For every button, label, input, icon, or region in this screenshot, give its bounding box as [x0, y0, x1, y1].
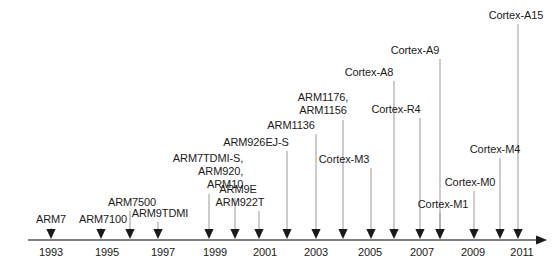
- timeline-entry-label-arm1136: ARM1136: [267, 119, 314, 132]
- marker-arrow-cortex-m0: [469, 229, 478, 239]
- year-tick-label-1999: 1999: [203, 246, 227, 258]
- marker-arrow-cortex-r4: [415, 229, 424, 239]
- marker-arrow-arm1176-arm1156: [338, 229, 347, 239]
- marker-arrow-arm7tdmi-s-arm920-arm10: [204, 229, 213, 239]
- timeline-entry-label-cortex-m3: Cortex-M3: [319, 153, 369, 166]
- marker-arrow-cortex-m4: [495, 229, 504, 239]
- arm-processor-timeline-figure: ARM7ARM7100ARM7500ARM9TDMIARM7TDMI-S, AR…: [0, 0, 557, 278]
- marker-arrow-arm9tdmi: [153, 229, 162, 239]
- marker-arrow-arm922t: [254, 229, 263, 239]
- year-tick-label-2001: 2001: [253, 246, 277, 258]
- marker-arrow-arm7500: [125, 229, 134, 239]
- marker-arrow-arm7100: [96, 229, 105, 239]
- marker-arrow-cortex-m1: [435, 229, 444, 239]
- year-tick-label-2005: 2005: [358, 246, 382, 258]
- timeline-entry-label-cortex-a8: Cortex-A8: [345, 66, 394, 79]
- timeline-entry-label-cortex-m0: Cortex-M0: [445, 176, 495, 189]
- year-tick-label-2009: 2009: [461, 246, 485, 258]
- timeline-entry-label-cortex-a15: Cortex-A15: [489, 9, 544, 22]
- year-tick-label-1995: 1995: [95, 246, 119, 258]
- timeline-entry-label-cortex-a9: Cortex-A9: [391, 44, 440, 57]
- marker-arrow-arm7: [46, 229, 55, 239]
- timeline-entry-label-arm9tdmi: ARM9TDMI: [132, 207, 189, 220]
- marker-arrow-arm1136: [311, 229, 320, 239]
- timeline-entry-label-arm9e: ARM9E: [219, 183, 256, 196]
- timeline-entry-label-arm7: ARM7: [36, 213, 66, 226]
- marker-arrow-arm9e: [230, 229, 239, 239]
- marker-arrow-cortex-a8: [389, 229, 398, 239]
- timeline-entry-label-cortex-m4: Cortex-M4: [470, 143, 520, 156]
- timeline-entry-label-arm926ej-s: ARM926EJ-S: [223, 136, 289, 149]
- year-tick-label-1997: 1997: [151, 246, 175, 258]
- year-tick-label-2011: 2011: [510, 246, 533, 258]
- timeline-entry-label-arm1176-arm1156: ARM1176, ARM1156: [298, 91, 348, 117]
- timeline-entry-label-arm922t: ARM922T: [216, 196, 265, 209]
- year-tick-label-2003: 2003: [304, 246, 328, 258]
- marker-arrow-cortex-m3: [366, 229, 375, 239]
- timeline-entry-label-cortex-m1: Cortex-M1: [418, 198, 468, 211]
- axis-end-arrow-icon: [536, 236, 547, 245]
- timeline-entry-label-arm7100: ARM7100: [79, 213, 127, 226]
- timeline-entry-label-cortex-r4: Cortex-R4: [371, 103, 420, 116]
- marker-arrow-cortex-a15: [513, 229, 522, 239]
- year-tick-label-1993: 1993: [39, 246, 63, 258]
- year-tick-label-2007: 2007: [410, 246, 434, 258]
- marker-arrow-arm926ej-s: [282, 229, 291, 239]
- marker-arrows-group: [46, 229, 522, 239]
